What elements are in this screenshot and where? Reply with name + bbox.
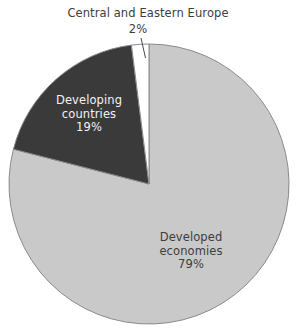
developing-countries-label-line1: Developing: [38, 94, 140, 108]
cee-value-label: 2%: [0, 23, 286, 36]
developed-economies-label: Developed economies 79%: [140, 231, 242, 272]
developing-countries-label-line2: countries: [38, 108, 140, 122]
developing-countries-value: 19%: [38, 121, 140, 135]
developing-countries-label: Developing countries 19%: [38, 94, 140, 135]
cee-title-label: Central and Eastern Europe: [0, 7, 296, 20]
pie-chart-canvas: [0, 0, 296, 336]
pie-chart: Central and Eastern Europe 2% Developing…: [0, 0, 296, 336]
developed-economies-label-line2: economies: [140, 245, 242, 259]
developed-economies-label-line1: Developed: [140, 231, 242, 245]
developed-economies-value: 79%: [140, 258, 242, 272]
